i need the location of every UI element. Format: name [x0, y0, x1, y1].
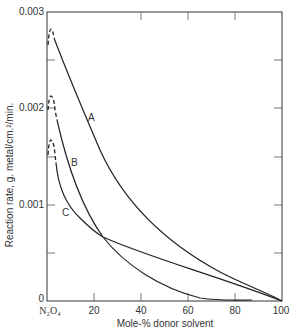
y-tick-0.001: 0.001 — [19, 199, 44, 210]
curve-a-dashed — [48, 29, 54, 45]
curve-label-c: C — [62, 207, 69, 218]
x-tick-40: 40 — [135, 305, 147, 316]
y-axis-title: Reaction rate, g. metal/cm.²/min. — [4, 103, 15, 248]
x-tick-n2o4: N₂O₄ — [39, 305, 61, 316]
y-ticks — [47, 60, 282, 253]
curve-label-a: A — [88, 112, 95, 123]
x-tick-60: 60 — [182, 305, 194, 316]
y-tick-0: 0 — [38, 293, 44, 304]
curve-c-dashed — [48, 140, 56, 163]
curve-c — [56, 163, 282, 301]
x-tick-80: 80 — [229, 305, 241, 316]
y-tick-0.003: 0.003 — [19, 6, 44, 17]
y-tick-0.002: 0.002 — [19, 102, 44, 113]
chart: A B C 0.003 0.002 0.001 0 N₂O₄ 20 40 60 … — [0, 0, 295, 330]
x-ticks — [94, 12, 235, 301]
x-tick-20: 20 — [88, 305, 100, 316]
plot-frame — [47, 12, 282, 301]
curve-label-b: B — [71, 157, 78, 168]
x-tick-100: 100 — [273, 305, 290, 316]
x-axis-title: Mole-% donor solvent — [117, 318, 214, 329]
